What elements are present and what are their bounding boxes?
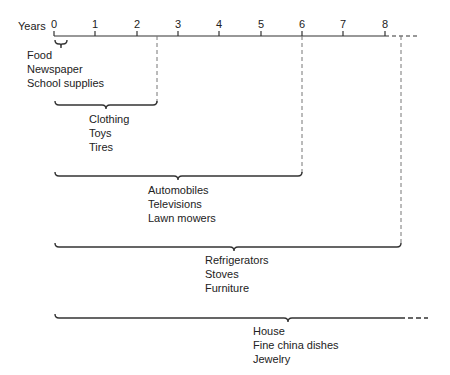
bracket-open <box>55 314 400 322</box>
group-label-6-years: Automobiles Televisions Lawn mowers <box>148 183 216 225</box>
tick-label: 0 <box>51 18 57 30</box>
tick-label: 2 <box>134 18 140 30</box>
bracket-6-years <box>55 172 302 180</box>
tick-label: 4 <box>216 18 222 30</box>
group-label-2-5-years: Clothing Toys Tires <box>89 112 129 154</box>
tick-label: 8 <box>382 18 388 30</box>
tick-label: 6 <box>299 18 305 30</box>
bracket-8-years <box>55 243 401 251</box>
bracket-short <box>55 40 67 48</box>
group-label-8-years: Refrigerators Stoves Furniture <box>205 253 269 295</box>
bracket-2-5-years <box>55 101 157 109</box>
tick-label: 1 <box>92 18 98 30</box>
tick-label: 7 <box>340 18 346 30</box>
tick-label: 5 <box>258 18 264 30</box>
axis-label: Years <box>18 19 46 33</box>
group-label-open: House Fine china dishes Jewelry <box>253 324 339 366</box>
group-label-short: Food Newspaper School supplies <box>27 48 104 90</box>
tick-label: 3 <box>175 18 181 30</box>
